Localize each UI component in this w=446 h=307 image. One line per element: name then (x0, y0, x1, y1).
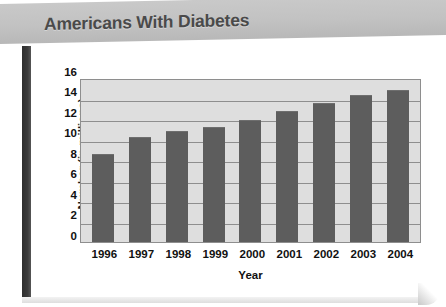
bar-series (81, 80, 420, 242)
bar (166, 131, 188, 242)
y-axis-tick: 14 (64, 86, 77, 98)
x-axis-tick: 2000 (240, 248, 262, 260)
bar (92, 154, 114, 242)
x-axis-tick-labels: 199619971998199920002001200220032004 (80, 248, 421, 260)
x-axis-tick: 1998 (166, 248, 188, 260)
y-axis-tick: 0 (71, 230, 77, 242)
bar-chart: Number (in millions) 1614121086420 19961… (31, 60, 431, 292)
bar (129, 137, 151, 242)
y-axis-tick: 16 (64, 66, 77, 78)
card-left-spine (22, 46, 31, 298)
x-axis-tick: 1999 (203, 248, 225, 260)
plot-area (80, 79, 421, 243)
bar (203, 127, 225, 242)
y-axis-tick: 6 (71, 168, 77, 180)
y-axis-tick: 8 (71, 148, 77, 160)
x-axis-tick: 2002 (314, 248, 336, 260)
x-axis-tick: 2001 (277, 248, 299, 260)
bar (387, 90, 409, 242)
x-axis-tick: 1996 (92, 248, 114, 260)
bar (313, 103, 335, 242)
x-axis-title: Year (80, 269, 421, 281)
y-axis-tick: 12 (64, 107, 77, 119)
y-axis-tick: 4 (71, 189, 77, 201)
x-axis-tick: 1997 (129, 248, 151, 260)
y-axis-tick: 2 (71, 209, 77, 221)
bar (350, 95, 372, 242)
bar (239, 120, 261, 242)
page-title: Americans With Diabetes (44, 10, 249, 35)
x-axis-tick: 2004 (388, 248, 410, 260)
x-axis-tick: 2003 (351, 248, 373, 260)
card-bottom-edge (22, 297, 434, 303)
y-axis-tick-labels: 1614121086420 (55, 72, 77, 236)
bar (276, 111, 298, 242)
y-axis-tick: 10 (64, 127, 77, 139)
